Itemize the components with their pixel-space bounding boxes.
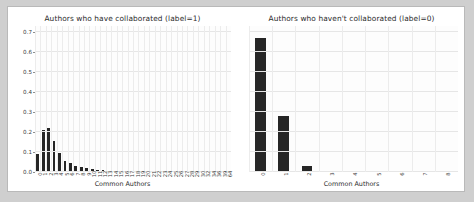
bar <box>58 153 61 172</box>
gridline-vertical <box>68 26 69 172</box>
gridline-vertical <box>193 26 194 172</box>
gridline-vertical <box>46 26 47 172</box>
gridline-vertical <box>89 26 90 172</box>
gridline-vertical <box>79 26 80 172</box>
gridline-vertical <box>84 26 85 172</box>
chart-title-left: Authors who have collaborated (label=1) <box>8 14 237 23</box>
x-tick-label: 64 <box>228 171 233 178</box>
gridline-horizontal <box>249 111 458 112</box>
y-tick-label: 0.1 <box>23 149 32 155</box>
gridline-vertical <box>149 26 150 172</box>
x-axis-label-left: Common Authors <box>8 180 237 188</box>
gridline-vertical <box>187 26 188 172</box>
gridline-vertical <box>198 26 199 172</box>
gridline-vertical <box>272 26 273 172</box>
gridline-vertical <box>155 26 156 172</box>
y-tick-label: 0.3 <box>23 109 32 115</box>
gridline-vertical <box>40 26 41 172</box>
subplot-label-1: Authors who have collaborated (label=1) … <box>8 7 237 193</box>
y-axis-tick-container: 0.00.10.20.30.40.50.60.7 <box>8 26 35 172</box>
gridline-vertical <box>365 26 366 172</box>
y-tick-label: 0.6 <box>23 49 32 55</box>
x-tick-label: 5 <box>377 172 382 175</box>
gridline-vertical <box>111 26 112 172</box>
gridline-horizontal <box>249 31 458 32</box>
gridline-horizontal <box>249 51 458 52</box>
gridline-vertical <box>133 26 134 172</box>
gridline-vertical <box>226 26 227 172</box>
gridline-horizontal <box>249 131 458 132</box>
gridline-vertical <box>122 26 123 172</box>
x-tick-label: 0 <box>261 172 266 175</box>
gridline-vertical <box>215 26 216 172</box>
plot-area-right <box>249 26 458 172</box>
gridline-horizontal <box>249 91 458 92</box>
gridline-vertical <box>204 26 205 172</box>
gridline-vertical <box>57 26 58 172</box>
x-tick-label: 4 <box>353 172 358 175</box>
x-tick-label: 2 <box>307 172 312 175</box>
gridline-vertical <box>171 26 172 172</box>
gridline-vertical <box>160 26 161 172</box>
gridline-vertical <box>295 26 296 172</box>
gridline-vertical <box>249 26 250 172</box>
gridline-vertical <box>106 26 107 172</box>
x-tick-label: 3 <box>330 172 335 175</box>
bar <box>47 128 50 172</box>
x-axis-label-right: Common Authors <box>237 180 466 188</box>
gridline-vertical <box>220 26 221 172</box>
gridline-vertical <box>209 26 210 172</box>
y-tick-label: 0.5 <box>23 69 32 75</box>
x-tick-label: 8 <box>446 172 451 175</box>
plot-area-left <box>35 26 231 172</box>
gridline-vertical <box>342 26 343 172</box>
gridline-vertical <box>182 26 183 172</box>
gridline-vertical <box>62 26 63 172</box>
x-tick-label: 6 <box>400 172 405 175</box>
gridline-vertical <box>412 26 413 172</box>
y-tick-label: 0.7 <box>23 29 32 35</box>
chart-title-right: Authors who haven't collaborated (label=… <box>237 14 466 23</box>
gridline-horizontal <box>249 71 458 72</box>
y-tick-label: 0.2 <box>23 129 32 135</box>
gridline-vertical <box>95 26 96 172</box>
figure-canvas: Authors who have collaborated (label=1) … <box>7 6 465 192</box>
gridline-vertical <box>177 26 178 172</box>
gridline-vertical <box>100 26 101 172</box>
bar <box>36 154 39 172</box>
gridline-vertical <box>319 26 320 172</box>
gridline-vertical <box>73 26 74 172</box>
gridline-horizontal <box>249 151 458 152</box>
x-tick-label: 7 <box>423 172 428 175</box>
gridline-vertical <box>128 26 129 172</box>
gridline-vertical <box>51 26 52 172</box>
subplot-label-0: Authors who haven't collaborated (label=… <box>237 7 466 193</box>
y-tick-label: 0.0 <box>23 169 32 175</box>
bar <box>278 116 289 172</box>
bar <box>53 141 56 172</box>
x-tick-label: 1 <box>284 172 289 175</box>
gridline-vertical <box>138 26 139 172</box>
gridline-vertical <box>144 26 145 172</box>
gridline-vertical <box>435 26 436 172</box>
y-tick-label: 0.4 <box>23 89 32 95</box>
gridline-vertical <box>35 26 36 172</box>
gridline-vertical <box>117 26 118 172</box>
gridline-vertical <box>166 26 167 172</box>
gridline-vertical <box>388 26 389 172</box>
